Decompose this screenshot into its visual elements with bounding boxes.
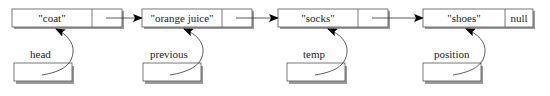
pointer-box (423, 63, 481, 81)
list-node: "coat" (12, 9, 124, 29)
pointer-label: head (30, 48, 51, 60)
pointer-variable: previous (143, 29, 203, 84)
pointer-box (143, 63, 201, 81)
pointer-variable: position (423, 29, 485, 84)
node-next-null: null (510, 12, 527, 24)
node-value: "socks" (301, 12, 334, 24)
pointer-label: temp (303, 48, 325, 60)
list-node: "socks" (278, 9, 390, 29)
pointer-box (287, 63, 345, 81)
pointer-variable: head (14, 29, 74, 84)
node-box (12, 9, 122, 27)
list-node: "shoes" null (423, 9, 535, 29)
pointer-label: previous (150, 48, 188, 60)
pointer-box (14, 63, 72, 81)
node-value: "orange juice" (150, 12, 213, 24)
pointer-label: position (434, 48, 470, 60)
linked-list-diagram: "coat" "orange juice" "socks" "shoes" nu… (0, 0, 550, 96)
pointer-variable: temp (287, 29, 347, 84)
node-value: "coat" (38, 12, 65, 24)
list-node: "orange juice" (142, 9, 254, 29)
node-value: "shoes" (447, 12, 480, 24)
